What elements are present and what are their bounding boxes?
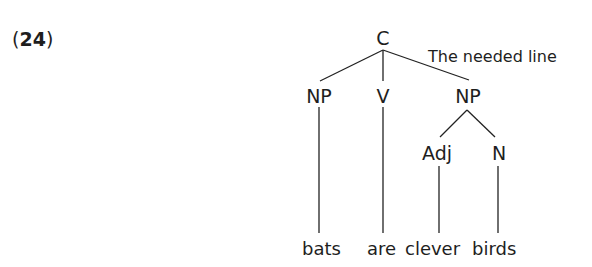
node-np-object: NP [455, 85, 481, 107]
annotation-needed-line: The needed line [427, 47, 557, 66]
word-birds: birds [472, 238, 516, 259]
node-adj: Adj [422, 142, 452, 164]
node-v: V [377, 85, 390, 107]
node-root-c: C [376, 27, 389, 49]
node-np-subject: NP [306, 85, 332, 107]
edge-np-adj [440, 110, 467, 137]
edge-c-np-subject [320, 50, 383, 81]
edge-np-n [467, 110, 495, 137]
word-clever: clever [405, 238, 461, 259]
node-n: N [492, 142, 506, 164]
syntax-tree: C The needed line NP V NP Adj N bats are… [0, 0, 592, 267]
word-are: are [367, 238, 396, 259]
word-bats: bats [302, 238, 341, 259]
